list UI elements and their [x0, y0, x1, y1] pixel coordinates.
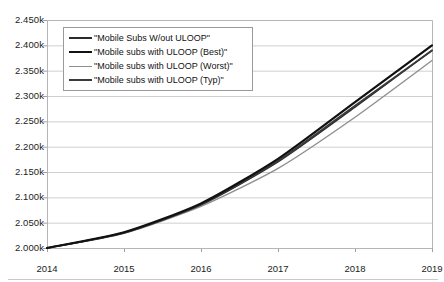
y-tick-label: 2.250k — [0, 115, 44, 126]
legend-label-3: "Mobile subs with ULOOP (Typ)" — [94, 75, 224, 85]
footer-divider — [8, 279, 438, 280]
x-tick-label: 2014 — [17, 263, 77, 274]
chart-legend: "Mobile Subs W/out ULOOP" "Mobile subs w… — [63, 27, 253, 91]
x-tick-label: 2018 — [325, 263, 385, 274]
x-tick-label: 2019 — [402, 263, 444, 274]
y-tick-label: 2.000k — [0, 242, 44, 253]
legend-item[interactable]: "Mobile Subs W/out ULOOP" — [67, 31, 248, 45]
legend-line-swatch-3 — [67, 75, 93, 85]
y-tick-label: 2.150k — [0, 166, 44, 177]
x-tick-label: 2015 — [94, 263, 154, 274]
legend-item[interactable]: "Mobile subs with ULOOP (Best)" — [67, 45, 248, 59]
y-tick-label: 2.400k — [0, 39, 44, 50]
legend-item[interactable]: "Mobile subs with ULOOP (Typ)" — [67, 73, 248, 87]
legend-item[interactable]: "Mobile subs with ULOOP (Worst)" — [67, 59, 248, 73]
y-tick-label: 2.050k — [0, 217, 44, 228]
line-chart: 2.000k2.050k2.100k2.150k2.200k2.250k2.30… — [0, 0, 444, 282]
legend-label-0: "Mobile Subs W/out ULOOP" — [94, 33, 210, 43]
y-tick-label: 2.300k — [0, 90, 44, 101]
y-tick-label: 2.350k — [0, 65, 44, 76]
y-tick-label: 2.450k — [0, 14, 44, 25]
y-tick-label: 2.200k — [0, 141, 44, 152]
legend-label-1: "Mobile subs with ULOOP (Best)" — [94, 47, 227, 57]
legend-line-swatch-0 — [67, 33, 93, 43]
x-tick-label: 2017 — [248, 263, 308, 274]
legend-label-2: "Mobile subs with ULOOP (Worst)" — [94, 61, 233, 71]
y-tick-label: 2.100k — [0, 191, 44, 202]
y-axis-tick-labels: 2.000k2.050k2.100k2.150k2.200k2.250k2.30… — [0, 0, 44, 282]
legend-line-swatch-1 — [67, 47, 93, 57]
legend-line-swatch-2 — [67, 61, 93, 71]
x-tick-label: 2016 — [171, 263, 231, 274]
